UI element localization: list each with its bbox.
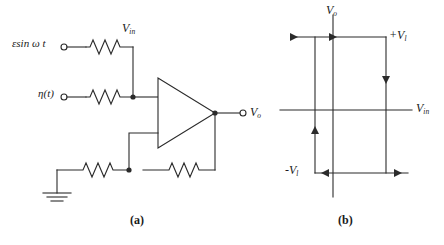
- figure-container: εsin ω t η(t) Vin Vo (a) Vo Vin +Vl -Vl …: [0, 0, 444, 245]
- label-vin-node: Vin: [122, 22, 135, 36]
- label-axis-vo-subscript: o: [333, 9, 337, 18]
- resistor-input-sinusoid: [86, 40, 133, 54]
- caption-panel-a: (a): [130, 214, 144, 226]
- arrow-lower-right: [394, 169, 402, 177]
- label-lower-saturation-subscript: l: [296, 169, 298, 178]
- output-terminal-vo: [240, 110, 246, 116]
- arrow-lower-mid: [321, 169, 329, 177]
- label-axis-vin-subscript: in: [423, 107, 429, 116]
- label-vo-subscript: o: [257, 111, 261, 120]
- label-upper-saturation-v: +V: [389, 28, 404, 42]
- input-terminal-sinusoid: [61, 44, 67, 50]
- label-vin-subscript: in: [129, 27, 135, 36]
- arrow-upper-left: [290, 33, 298, 41]
- resistor-feedback: [143, 163, 215, 177]
- opamp-triangle: [158, 78, 215, 148]
- label-of-t: (t): [43, 87, 53, 99]
- caption-panel-b: (b): [338, 214, 353, 226]
- arrow-left-up: [311, 126, 319, 134]
- label-upper-saturation-subscript: l: [404, 34, 406, 43]
- label-vo-output: Vo: [250, 106, 261, 120]
- label-noise-input: η(t): [38, 88, 54, 99]
- label-axis-vo: Vo: [326, 4, 337, 18]
- resistor-input-noise: [86, 90, 133, 104]
- wire-feedback-to-inverting-input: [129, 133, 158, 170]
- input-terminal-noise: [61, 94, 67, 100]
- junction-dot-vin: [130, 94, 135, 99]
- label-sinusoidal-input: εsin ω t: [12, 38, 46, 49]
- resistor-ground-leg: [57, 163, 129, 177]
- label-lower-saturation-v: -V: [285, 163, 296, 177]
- arrow-right-down: [382, 76, 390, 84]
- label-upper-saturation: +Vl: [389, 29, 407, 43]
- label-lower-saturation: -Vl: [285, 164, 298, 178]
- label-axis-vin: Vin: [416, 102, 429, 116]
- label-sin-omega-t: sin ω t: [16, 37, 45, 49]
- figure-vector-layer: [0, 0, 444, 245]
